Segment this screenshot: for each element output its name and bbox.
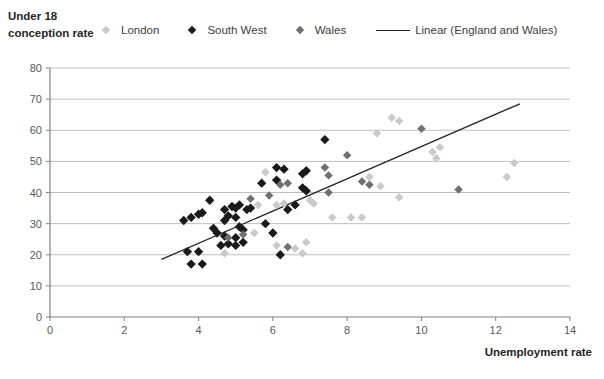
- x-tick-label-10: 10: [415, 324, 427, 336]
- data-point-london: [365, 173, 373, 181]
- data-point-london: [436, 143, 444, 151]
- data-point-south-west: [231, 213, 240, 222]
- y-tick-label-50: 50: [30, 155, 42, 167]
- data-point-south-west: [198, 259, 207, 268]
- x-tick-label-14: 14: [564, 324, 576, 336]
- x-tick-label-12: 12: [490, 324, 502, 336]
- data-point-south-west: [276, 250, 285, 259]
- data-point-south-west: [279, 164, 288, 173]
- trendline-england-and-wales: [161, 104, 519, 260]
- data-point-london: [250, 229, 258, 237]
- y-tick-label-20: 20: [30, 249, 42, 261]
- data-point-london: [510, 159, 518, 167]
- data-point-london: [395, 117, 403, 125]
- data-point-london: [291, 244, 299, 252]
- data-point-london: [503, 173, 511, 181]
- data-point-south-west: [216, 241, 225, 250]
- data-point-wales: [283, 179, 291, 187]
- data-point-london: [272, 241, 280, 249]
- data-point-wales: [246, 194, 254, 202]
- x-tick-label-8: 8: [344, 324, 350, 336]
- scatter-chart: Under 18 conception rate London South We…: [0, 0, 604, 379]
- x-tick-label-4: 4: [196, 324, 202, 336]
- data-point-london: [302, 238, 310, 246]
- data-point-london: [328, 213, 336, 221]
- data-point-london: [261, 168, 269, 176]
- data-point-wales: [358, 177, 366, 185]
- data-point-south-west: [290, 200, 299, 209]
- y-tick-label-70: 70: [30, 93, 42, 105]
- data-point-south-west: [261, 219, 270, 228]
- data-point-london: [358, 213, 366, 221]
- data-point-south-west: [257, 178, 266, 187]
- plot-area: 0102030405060708002468101214: [0, 0, 604, 379]
- y-tick-label-60: 60: [30, 124, 42, 136]
- x-tick-label-6: 6: [270, 324, 276, 336]
- data-point-south-west: [268, 228, 277, 237]
- data-point-wales: [321, 163, 329, 171]
- data-point-wales: [417, 124, 425, 132]
- data-point-london: [347, 213, 355, 221]
- data-point-london: [395, 193, 403, 201]
- y-tick-label-10: 10: [30, 280, 42, 292]
- data-point-south-west: [272, 163, 281, 172]
- data-point-south-west: [205, 196, 214, 205]
- data-point-wales: [343, 151, 351, 159]
- data-point-london: [376, 182, 384, 190]
- y-tick-label-40: 40: [30, 187, 42, 199]
- y-tick-label-80: 80: [30, 62, 42, 74]
- data-point-south-west: [186, 259, 195, 268]
- y-tick-label-0: 0: [36, 311, 42, 323]
- data-point-wales: [365, 180, 373, 188]
- data-point-wales: [324, 171, 332, 179]
- x-axis-title: Unemployment rate: [485, 346, 592, 358]
- x-tick-label-2: 2: [121, 324, 127, 336]
- data-point-london: [220, 249, 228, 257]
- data-point-wales: [324, 188, 332, 196]
- x-tick-label-0: 0: [47, 324, 53, 336]
- data-point-wales: [283, 243, 291, 251]
- data-point-london: [298, 249, 306, 257]
- data-point-london: [387, 114, 395, 122]
- y-tick-label-30: 30: [30, 218, 42, 230]
- data-point-south-west: [320, 135, 329, 144]
